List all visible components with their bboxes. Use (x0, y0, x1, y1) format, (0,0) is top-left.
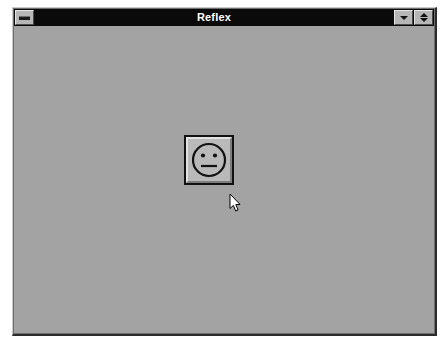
window-title: Reflex (34, 9, 394, 26)
application-window: Reflex (12, 7, 437, 336)
screen: Reflex (0, 0, 444, 347)
restore-button[interactable] (414, 10, 433, 25)
title-bar-buttons (394, 10, 433, 25)
neutral-face-button[interactable] (184, 135, 234, 185)
neutral-face-icon (190, 141, 228, 179)
restore-triangle-down-icon (420, 18, 428, 22)
minimize-button[interactable] (394, 10, 413, 25)
system-menu-glyph (19, 16, 30, 20)
restore-triangle-up-icon (420, 13, 428, 17)
system-menu-icon[interactable] (15, 10, 34, 25)
client-area (14, 26, 434, 333)
minimize-triangle-down-icon (400, 16, 408, 20)
title-bar[interactable]: Reflex (14, 9, 434, 26)
